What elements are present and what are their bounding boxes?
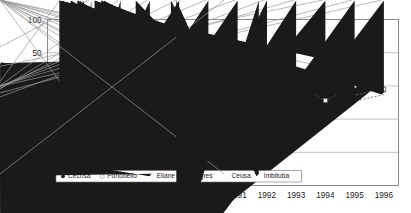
- legend-label-eliane: Eliane: [157, 172, 176, 179]
- x-tick-label-1992: 1992: [258, 191, 277, 200]
- x-tick-label-1996: 1996: [375, 191, 394, 200]
- legend-label-imbituba: Imbituba: [264, 172, 290, 179]
- point-itagres-1994: [323, 99, 327, 103]
- percent-change-line-chart: 100500−50−100−150%1985198619871988198919…: [0, 0, 411, 213]
- x-tick-label-1993: 1993: [287, 191, 306, 200]
- chart-container: 100500−50−100−150%1985198619871988198919…: [0, 0, 411, 213]
- legend-label-ceusa: Ceusa: [232, 172, 251, 179]
- x-tick-label-1994: 1994: [316, 191, 335, 200]
- x-tick-label-1995: 1995: [346, 191, 365, 200]
- legend-marker-portobello: [100, 174, 104, 178]
